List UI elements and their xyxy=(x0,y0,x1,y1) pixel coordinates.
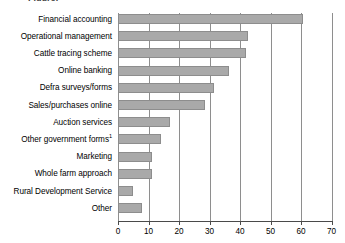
x-tick xyxy=(179,221,180,225)
bar xyxy=(118,117,170,127)
x-tick xyxy=(210,221,211,225)
gridline-30 xyxy=(210,13,211,221)
x-tick-label: 20 xyxy=(174,227,183,237)
bar xyxy=(118,134,161,144)
category-label: Operational management xyxy=(21,32,112,41)
category-label: Other xyxy=(92,204,112,213)
category-label: Other government forms1 xyxy=(21,135,112,144)
category-label: Marketing xyxy=(77,152,113,161)
gridline-60 xyxy=(301,13,302,221)
gridline-50 xyxy=(271,13,272,221)
x-tick-label: 50 xyxy=(266,227,275,237)
bar xyxy=(118,48,246,58)
x-tick-label: 10 xyxy=(144,227,153,237)
category-label: Online banking xyxy=(58,66,112,75)
category-label: Financial accounting xyxy=(38,15,112,24)
gridline-20 xyxy=(179,13,180,221)
x-tick xyxy=(240,221,241,225)
category-label: Rural Development Service xyxy=(14,187,112,196)
category-label: Whole farm approach xyxy=(35,169,112,178)
bar xyxy=(118,203,142,213)
x-tick xyxy=(149,221,150,225)
x-tick-label: 0 xyxy=(116,227,121,237)
bar xyxy=(118,83,214,93)
bar-chart: Figure: Financial accountingOperational … xyxy=(0,0,345,243)
x-tick-label: 30 xyxy=(205,227,214,237)
gridline-70 xyxy=(332,13,333,221)
bar xyxy=(118,152,152,162)
x-tick xyxy=(332,221,333,225)
bar xyxy=(118,186,133,196)
x-axis-line xyxy=(118,221,332,222)
bar xyxy=(118,31,248,41)
category-label: Defra surveys/forms xyxy=(40,83,112,92)
category-label: Auction services xyxy=(53,118,112,127)
plot-area xyxy=(118,13,332,221)
plot-container: Financial accountingOperational manageme… xyxy=(0,13,345,221)
bar xyxy=(118,14,303,24)
x-tick-label: 70 xyxy=(327,227,336,237)
category-label: Sales/purchases online xyxy=(28,101,112,110)
category-label: Cattle tracing scheme xyxy=(34,49,112,58)
x-tick xyxy=(271,221,272,225)
chart-title-fragment: Figure: xyxy=(28,0,59,1)
x-tick xyxy=(118,221,119,225)
category-labels: Financial accountingOperational manageme… xyxy=(0,13,116,221)
gridline-40 xyxy=(240,13,241,221)
x-tick-label: 40 xyxy=(235,227,244,237)
footnote-marker: 1 xyxy=(109,133,112,139)
bar xyxy=(118,66,229,76)
x-tick xyxy=(301,221,302,225)
bar xyxy=(118,100,205,110)
x-tick-label: 60 xyxy=(296,227,305,237)
bar xyxy=(118,169,152,179)
